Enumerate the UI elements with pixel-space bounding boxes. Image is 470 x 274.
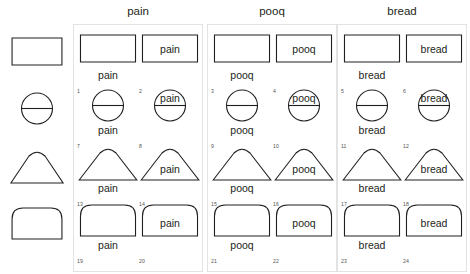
rectangle-glyph xyxy=(138,31,202,71)
trial-word-below: bread xyxy=(340,182,404,195)
trial-cell[interactable]: bread23 xyxy=(340,201,404,263)
panel-pooq: pooq3pooq4pooq9pooq10pooq15pooq16pooq21p… xyxy=(207,24,337,272)
trial-shape-dome-triangle xyxy=(340,144,404,184)
arch-glyph xyxy=(272,201,336,241)
trial-shape-arch xyxy=(76,201,140,241)
arch-glyph xyxy=(76,201,140,241)
arch-glyph xyxy=(402,201,466,241)
trial-number: 21 xyxy=(211,258,217,264)
trial-cell[interactable]: bread12 xyxy=(402,86,466,148)
panel-header-row: pain pooq bread xyxy=(0,0,470,24)
trial-shape-rectangle xyxy=(340,31,404,71)
circle-with-diameter-glyph xyxy=(402,86,466,126)
trial-shape-dome-triangle: pain xyxy=(138,144,202,184)
trial-shape-rectangle: pooq xyxy=(272,31,336,71)
trial-cell[interactable]: pain20 xyxy=(138,201,202,263)
trial-shape-rectangle: bread xyxy=(402,31,466,71)
circle-with-diameter-glyph xyxy=(340,86,404,126)
circle-with-diameter-glyph xyxy=(272,86,336,126)
dome-triangle-glyph xyxy=(340,144,404,184)
trial-word-below: pain xyxy=(76,239,140,252)
trial-shape-dome-triangle: pooq xyxy=(272,144,336,184)
trial-cell[interactable]: pooq3 xyxy=(210,31,274,93)
reference-shape-dome-triangle xyxy=(8,147,66,187)
rectangle-glyph xyxy=(340,31,404,71)
trial-cell[interactable]: pain1 xyxy=(76,31,140,93)
arch-glyph xyxy=(138,201,202,241)
trial-shape-arch xyxy=(210,201,274,241)
arch-glyph xyxy=(340,201,404,241)
trial-cell[interactable]: bread17 xyxy=(340,144,404,206)
trial-word-below: pooq xyxy=(210,124,274,137)
trial-cell[interactable]: bread6 xyxy=(402,31,466,93)
trial-word-below: pooq xyxy=(210,239,274,252)
trial-cell[interactable]: pooq10 xyxy=(272,86,336,148)
trial-cell[interactable]: pain2 xyxy=(138,31,202,93)
trial-cell[interactable]: bread11 xyxy=(340,86,404,148)
rectangle-glyph xyxy=(210,31,274,71)
trial-cell[interactable]: pain8 xyxy=(138,86,202,148)
trial-number: 19 xyxy=(77,258,83,264)
panel-header-bread: bread xyxy=(337,4,467,18)
trial-cell[interactable]: pooq4 xyxy=(272,31,336,93)
trial-shape-arch: pooq xyxy=(272,201,336,241)
trial-cell[interactable]: pain7 xyxy=(76,86,140,148)
rectangle-glyph xyxy=(402,31,466,71)
trial-shape-rectangle xyxy=(210,31,274,71)
trial-shape-dome-triangle: bread xyxy=(402,144,466,184)
trial-word-below: pooq xyxy=(210,69,274,82)
trial-cell[interactable]: pooq9 xyxy=(210,86,274,148)
panel-header-pooq: pooq xyxy=(207,4,337,18)
dome-triangle-glyph xyxy=(272,144,336,184)
trial-word-below: pain xyxy=(76,69,140,82)
reference-shape-rectangle xyxy=(8,34,66,74)
dome-triangle-glyph xyxy=(138,144,202,184)
trial-word-below: pooq xyxy=(210,182,274,195)
trial-cell[interactable]: pain14 xyxy=(138,144,202,206)
panel-pain: pain1pain2pain7pain8pain13pain14pain19pa… xyxy=(73,24,203,272)
arch-glyph xyxy=(8,204,66,244)
trial-cell[interactable]: bread18 xyxy=(402,144,466,206)
trial-cell[interactable]: pooq21 xyxy=(210,201,274,263)
circle-with-diameter-glyph xyxy=(138,86,202,126)
trial-cell[interactable]: pooq15 xyxy=(210,144,274,206)
trial-word-below: bread xyxy=(340,124,404,137)
dome-triangle-glyph xyxy=(8,147,66,187)
trial-shape-circle-with-diameter xyxy=(340,86,404,126)
trial-number: 24 xyxy=(403,258,409,264)
trial-shape-circle-with-diameter: pooq xyxy=(272,86,336,126)
trial-word-below: pain xyxy=(76,124,140,137)
trial-number: 22 xyxy=(273,258,279,264)
dome-triangle-glyph xyxy=(76,144,140,184)
rectangle-glyph xyxy=(8,34,66,74)
rectangle-glyph xyxy=(76,31,140,71)
trial-shape-arch: pain xyxy=(138,201,202,241)
stimulus-figure: pain pooq bread pain1pain2pain7pain8pain… xyxy=(0,0,470,274)
trial-cell[interactable]: pooq22 xyxy=(272,201,336,263)
trial-cell[interactable]: pain13 xyxy=(76,144,140,206)
reference-shape-arch xyxy=(8,204,66,244)
circle-with-diameter-glyph xyxy=(210,86,274,126)
dome-triangle-glyph xyxy=(210,144,274,184)
trial-number: 23 xyxy=(341,258,347,264)
trial-shape-rectangle: pain xyxy=(138,31,202,71)
trial-cell[interactable]: pain19 xyxy=(76,201,140,263)
dome-triangle-glyph xyxy=(402,144,466,184)
trial-number: 20 xyxy=(139,258,145,264)
trial-shape-circle-with-diameter: pain xyxy=(138,86,202,126)
trial-cell[interactable]: bread5 xyxy=(340,31,404,93)
trial-shape-dome-triangle xyxy=(76,144,140,184)
arch-glyph xyxy=(210,201,274,241)
trial-word-below: bread xyxy=(340,69,404,82)
trial-shape-circle-with-diameter xyxy=(210,86,274,126)
circle-with-diameter-glyph xyxy=(8,89,66,129)
trial-word-below: bread xyxy=(340,239,404,252)
rectangle-glyph xyxy=(272,31,336,71)
trial-word-below: pain xyxy=(76,182,140,195)
trial-shape-rectangle xyxy=(76,31,140,71)
trial-cell[interactable]: pooq16 xyxy=(272,144,336,206)
trial-shape-arch: bread xyxy=(402,201,466,241)
trial-shape-dome-triangle xyxy=(210,144,274,184)
trial-cell[interactable]: bread24 xyxy=(402,201,466,263)
reference-shape-column xyxy=(0,24,73,274)
